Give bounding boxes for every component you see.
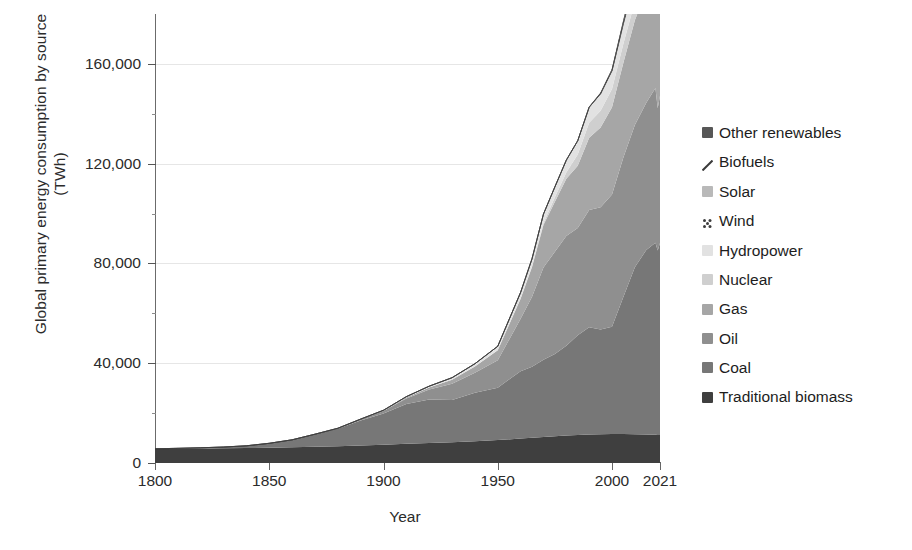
legend-label: Wind [719, 213, 754, 229]
legend-label: Biofuels [719, 154, 774, 170]
stacked-area-series [155, 14, 660, 463]
x-tick-label: 1850 [252, 472, 286, 490]
legend-item-hydropower[interactable]: Hydropower [702, 236, 902, 265]
legend-item-traditional-biomass[interactable]: Traditional biomass [702, 383, 902, 412]
legend-label: Solar [719, 184, 755, 200]
legend-swatch-icon [702, 274, 713, 285]
legend-swatch-icon [702, 333, 713, 344]
x-tick-label: 2021 [643, 472, 677, 490]
x-tick-mark [384, 462, 385, 470]
x-tick-mark [612, 462, 613, 470]
legend-item-oil[interactable]: Oil [702, 324, 902, 353]
x-tick-label: 1900 [366, 472, 400, 490]
y-tick-label: 40,000 [31, 354, 141, 372]
y-tick-label: 0 [31, 454, 141, 472]
y-tick-label: 160,000 [31, 55, 141, 73]
x-tick-mark [660, 462, 661, 470]
x-tick-label: 1950 [481, 472, 515, 490]
legend-swatch-icon [702, 362, 713, 373]
legend-item-solar[interactable]: Solar [702, 177, 902, 206]
legend-swatch-icon [702, 127, 713, 138]
x-tick-label: 1800 [138, 472, 172, 490]
legend-item-gas[interactable]: Gas [702, 294, 902, 323]
legend-label: Gas [719, 301, 747, 317]
legend-item-wind[interactable]: Wind [702, 206, 902, 235]
legend-item-biofuels[interactable]: Biofuels [702, 147, 902, 176]
x-axis-title: Year [155, 508, 655, 526]
x-tick-mark [498, 462, 499, 470]
legend-swatch-icon [702, 304, 713, 315]
legend-label: Nuclear [719, 272, 772, 288]
legend-swatch-icon [702, 392, 713, 403]
y-tick-label: 80,000 [31, 254, 141, 272]
chart-legend: Other renewablesBiofuelsSolarWindHydropo… [702, 118, 902, 412]
legend-label: Traditional biomass [719, 389, 853, 405]
legend-item-nuclear[interactable]: Nuclear [702, 265, 902, 294]
legend-label: Oil [719, 331, 738, 347]
legend-swatch-icon [702, 186, 713, 197]
legend-item-other-renewables[interactable]: Other renewables [702, 118, 902, 147]
legend-swatch-icon [702, 215, 713, 226]
x-tick-label: 2000 [595, 472, 629, 490]
legend-label: Other renewables [719, 125, 841, 141]
legend-label: Hydropower [719, 243, 803, 259]
legend-swatch-icon [702, 245, 713, 256]
y-tick-label: 120,000 [31, 155, 141, 173]
plot-area [155, 14, 660, 463]
legend-item-coal[interactable]: Coal [702, 353, 902, 382]
x-tick-mark [269, 462, 270, 470]
legend-label: Coal [719, 360, 751, 376]
x-tick-mark [155, 462, 156, 470]
legend-swatch-icon [702, 157, 713, 168]
